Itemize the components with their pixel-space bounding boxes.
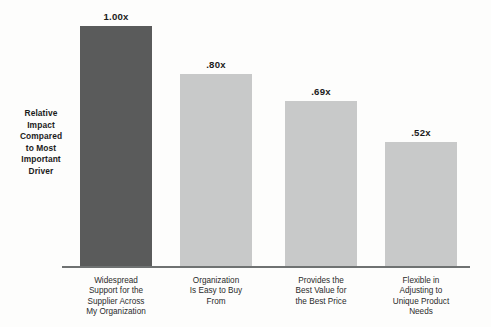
category-label-line: Provides the [269,276,373,286]
category-label-line: Organization [164,276,268,286]
bar-group: .80x [180,0,252,268]
category-label-line: My Organization [64,307,168,317]
category-label-line: Support for the [64,286,168,296]
bar-flexible-adjusting[interactable] [385,142,457,268]
bar-easy-to-buy-from[interactable] [180,74,252,268]
category-label-best-value-best-price: Provides the Best Value for the Best Pri… [269,276,373,307]
bar-value-label: 1.00x [66,11,166,22]
x-axis-line [62,266,470,268]
category-label-line: Adjusting to [369,286,473,296]
category-label-line: Best Value for [269,286,373,296]
bar-value-label: .80x [166,59,266,70]
category-label-widespread-support: Widespread Support for the Supplier Acro… [64,276,168,318]
bar-widespread-support[interactable] [80,26,152,268]
category-label-line: Flexible in [369,276,473,286]
category-label-line: Needs [369,307,473,317]
category-label-line: From [164,297,268,307]
plot-area: 1.00x .80x .69x .52x [62,0,470,268]
bar-value-label: .52x [371,127,471,138]
category-label-line: Widespread [64,276,168,286]
category-label-flexible-adjusting: Flexible in Adjusting to Unique Product … [369,276,473,318]
bar-group: .52x [385,0,457,268]
category-axis-labels: Widespread Support for the Supplier Acro… [62,276,470,324]
bar-best-value-best-price[interactable] [285,101,357,268]
bar-group: 1.00x [80,0,152,268]
category-label-line: Is Easy to Buy [164,286,268,296]
category-label-line: Supplier Across [64,297,168,307]
category-label-line: the Best Price [269,297,373,307]
category-label-easy-to-buy-from: Organization Is Easy to Buy From [164,276,268,307]
category-label-line: Unique Product [369,297,473,307]
bar-value-label: .69x [271,86,371,97]
bar-group: .69x [285,0,357,268]
bar-chart: Relative Impact Compared to Most Importa… [0,0,491,327]
